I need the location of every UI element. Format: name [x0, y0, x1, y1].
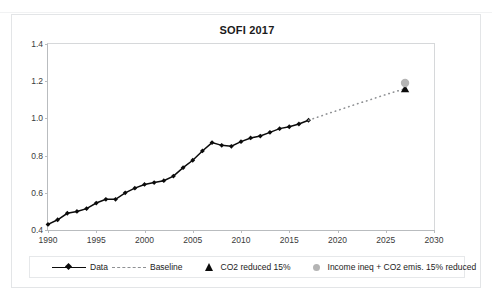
x-axis-tick-label: 1990 — [39, 235, 58, 245]
chart-plot-svg — [48, 44, 434, 230]
legend-item-co2-reduced: CO2 reduced 15% — [205, 262, 291, 272]
data-point-marker — [229, 144, 234, 149]
chart-container: SOFI 2017 0.40.60.81.01.21.4199019952000… — [11, 14, 481, 288]
legend-label-income-co2: Income ineq + CO2 emis. 15% reduced — [328, 262, 477, 272]
chart-screenshot: · · · · · SOFI 2017 0.40.60.81.01.21.419… — [0, 0, 492, 297]
data-point-marker — [297, 122, 302, 127]
data-point-marker — [75, 209, 80, 214]
legend-label-baseline: Baseline — [150, 262, 183, 272]
legend-item-baseline: Baseline — [112, 262, 183, 272]
x-axis-tick-mark — [241, 230, 242, 233]
data-point-marker — [287, 124, 292, 129]
legend-item-income-co2: Income ineq + CO2 emis. 15% reduced — [313, 262, 477, 272]
x-axis-tick-label: 2000 — [135, 235, 154, 245]
legend-item-data: Data — [52, 262, 108, 272]
data-point-marker — [132, 186, 137, 191]
data-point-marker — [239, 139, 244, 144]
y-axis-tick-label: 1.4 — [31, 39, 43, 49]
x-axis-tick-label: 2020 — [328, 235, 347, 245]
income-co2-marker — [401, 79, 409, 87]
x-axis-tick-label: 2025 — [376, 235, 395, 245]
data-point-marker — [142, 182, 147, 187]
circle-marker-icon — [313, 264, 320, 271]
top-strip-right-ghost-text: · · · — [330, 0, 344, 3]
y-axis-tick-label: 0.8 — [31, 151, 43, 161]
x-axis-tick-mark — [386, 230, 387, 233]
triangle-marker-icon — [205, 263, 213, 271]
x-axis-tick-mark — [145, 230, 146, 233]
x-axis-tick-label: 2005 — [183, 235, 202, 245]
line-diamond-icon — [52, 263, 86, 272]
y-axis-tick-label: 0.6 — [31, 188, 43, 198]
y-axis-tick-label: 1.2 — [31, 76, 43, 86]
top-strip-left-ghost-text: · · — [26, 0, 35, 3]
x-axis-tick-label: 2015 — [280, 235, 299, 245]
x-axis-tick-label: 2010 — [232, 235, 251, 245]
data-point-marker — [277, 126, 282, 131]
x-axis-tick-mark — [338, 230, 339, 233]
data-point-marker — [268, 130, 273, 135]
data-point-marker — [258, 134, 263, 139]
top-divider — [0, 12, 492, 13]
chart-legend: Data Baseline CO2 reduced 15% Income ine… — [29, 256, 465, 278]
data-point-marker — [46, 222, 51, 227]
y-axis-tick-label: 0.4 — [31, 225, 43, 235]
y-axis-tick-label: 1.0 — [31, 113, 43, 123]
chart-title: SOFI 2017 — [12, 24, 482, 36]
x-axis-tick-mark — [193, 230, 194, 233]
data-point-marker — [104, 197, 109, 202]
dashed-line-icon — [112, 263, 146, 272]
plot-area: 0.40.60.81.01.21.41990199520002005201020… — [47, 43, 435, 231]
data-point-marker — [219, 143, 224, 148]
data-point-marker — [161, 178, 166, 183]
baseline-series-line — [309, 89, 406, 121]
x-axis-tick-mark — [289, 230, 290, 233]
data-point-marker — [152, 180, 157, 185]
x-axis-tick-mark — [48, 230, 49, 233]
x-axis-tick-label: 1995 — [87, 235, 106, 245]
legend-label-data: Data — [90, 262, 108, 272]
x-axis-tick-mark — [434, 230, 435, 233]
data-point-marker — [248, 136, 253, 141]
x-axis-tick-label: 2030 — [425, 235, 444, 245]
legend-label-co2-reduced: CO2 reduced 15% — [221, 262, 291, 272]
x-axis-tick-mark — [96, 230, 97, 233]
